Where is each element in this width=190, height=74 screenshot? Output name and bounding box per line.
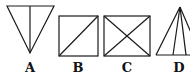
figure-a-label: A [24,60,36,74]
figure-a: A [7,6,54,74]
figure-c-label: C [122,60,132,74]
figure-b: B [59,16,98,74]
figure-c: C [104,16,150,74]
figure-options-diagram: A B C D [0,0,190,74]
figure-d: D [156,7,190,74]
figure-d-label: D [173,60,184,74]
figure-b-label: B [73,60,84,74]
diagonal-line [59,16,98,56]
